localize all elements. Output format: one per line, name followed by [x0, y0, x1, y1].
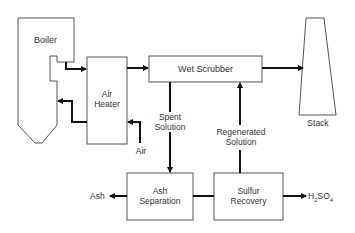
air-heater-label: Air Heater	[87, 89, 127, 109]
sulfur-recovery-line1: Sulfur	[214, 186, 283, 196]
spent-solution-line2: Solution	[150, 122, 190, 132]
air-inlet-arrow	[128, 122, 140, 143]
hot-air-to-boiler-arrow	[58, 101, 87, 122]
air-heater-label-line1: Air	[87, 89, 127, 99]
flue-gas-to-air-heater-arrow	[66, 62, 86, 69]
stack-label: Stack	[305, 118, 331, 128]
boiler-label: Boiler	[34, 35, 57, 45]
stack-shape	[299, 18, 336, 115]
regenerated-solution-line2: Solution	[214, 137, 268, 147]
ash-separation-label: Ash Separation	[127, 186, 193, 206]
wet-scrubber-label: Wet Scrubber	[149, 64, 262, 74]
sulfur-recovery-line2: Recovery	[214, 196, 283, 206]
ash-separation-line1: Ash	[127, 186, 193, 196]
h2so4-so: SO	[317, 191, 329, 201]
h2so4-output-label: H2SO4	[308, 191, 333, 205]
h2so4-sub-4: 4	[330, 197, 333, 203]
sulfur-recovery-label: Sulfur Recovery	[214, 186, 283, 206]
ash-output-label: Ash	[90, 191, 105, 201]
regenerated-solution-line1: Regenerated	[214, 127, 268, 137]
air-stream-label: Air	[132, 146, 150, 156]
regenerated-solution-label: Regenerated Solution	[214, 127, 268, 147]
ash-separation-line2: Separation	[127, 196, 193, 206]
spent-solution-line1: Spent	[150, 112, 190, 122]
air-heater-label-line2: Heater	[87, 99, 127, 109]
spent-solution-label: Spent Solution	[150, 112, 190, 132]
